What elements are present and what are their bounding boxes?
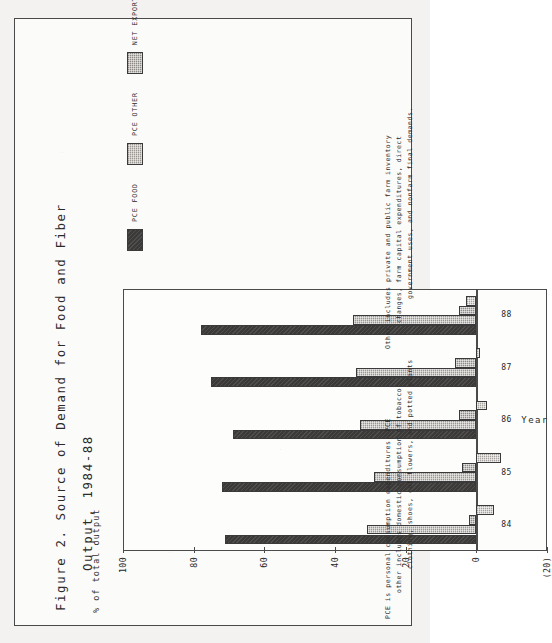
bar [201,325,477,335]
footnote-right: Other includes private and public farm i… [383,107,416,349]
bar [466,296,477,306]
plot-area: 100806040200(20) 8485868788 [123,289,547,551]
footnote-left: PCE is personal consumption expenditures… [383,359,416,619]
value-axis-tick [335,547,336,553]
bar [476,348,480,358]
bar [233,430,477,440]
bar [459,306,477,316]
category-label: 87 [481,363,533,372]
bar [225,535,476,545]
legend-label: PCE OTHER [131,92,139,136]
bar [455,358,476,368]
bar [356,368,476,378]
value-axis-tick-label: 100 [118,557,128,591]
category-label: 88 [481,311,533,320]
category-label: 85 [481,468,533,477]
value-axis-tick [264,547,265,553]
footnote-line: clothing, shoes, cut flowers, and potted… [405,359,416,619]
legend-item: NET EXPORTS [127,0,143,74]
value-axis-tick [194,547,195,553]
figure-title-line-2: Output, 1984-88 [80,51,95,571]
value-axis-tick-label: 80 [189,557,199,591]
document-sheet: Figure 2. Source of Demand for Food and … [14,18,412,626]
legend-swatch [127,52,143,74]
category-axis-title: Year [522,415,549,425]
value-axis-tick-label: 0 [471,557,481,591]
bar [476,453,501,463]
footnote-line: government uses, and nonfarm final deman… [405,107,416,349]
bar [476,401,487,411]
legend-label: NET EXPORTS [131,0,139,45]
plot-wrapper: 100806040200(20) 8485868788 Year [123,171,385,595]
legend-item: PCE OTHER [127,92,143,165]
footnote-line: Other includes private and public farm i… [383,107,394,349]
value-axis-tick [123,547,124,553]
value-axis-tick-label: (20) [542,557,552,591]
value-axis-tick-label: 60 [259,557,269,591]
figure-title-line-1: Figure 2. Source of Demand for Food and … [53,51,68,611]
figure-title: Figure 2. Source of Demand for Food and … [53,51,95,611]
category-label: 84 [481,520,533,529]
bar [211,377,476,387]
value-axis-caption: % of total output [91,509,101,613]
value-axis-tick-label: 40 [330,557,340,591]
bar [469,515,476,525]
bar [360,420,477,430]
footnote-line: PCE is personal consumption expenditures… [383,359,394,619]
bar [222,482,476,492]
footnote-line: other includes domestic consumption of t… [394,359,405,619]
bar [476,505,494,515]
legend-swatch [127,143,143,165]
bar [459,410,477,420]
footnote-line: changes, farm capital expenditures, dire… [394,107,405,349]
bar [462,463,476,473]
value-axis-tick [547,547,548,553]
